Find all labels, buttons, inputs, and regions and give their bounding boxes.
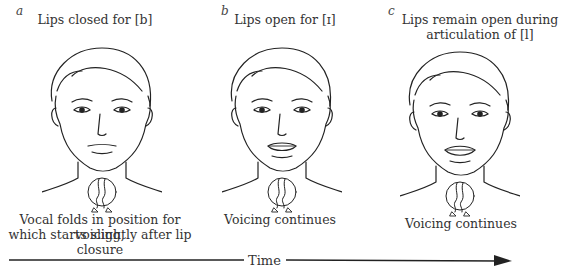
face-illustration-c-lips-open	[400, 50, 520, 218]
arrowhead-icon	[494, 255, 512, 266]
time-label: Time	[248, 253, 281, 268]
panel-b-title: Lips open for [ɪ]	[210, 12, 360, 27]
panel-c-caption: Voicing continues	[386, 216, 536, 231]
panel-c-title-line1: Lips remain open during	[395, 12, 563, 27]
face-illustration-b-lips-open	[222, 46, 342, 214]
panel-c-letter: c	[388, 4, 395, 18]
panel-b-caption: Voicing continues	[205, 212, 355, 227]
face-illustration-a-lips-closed	[42, 46, 162, 214]
panel-c-title-line2: articulation of [l]	[395, 27, 563, 42]
panel-a-title: Lips closed for [b]	[20, 12, 170, 27]
